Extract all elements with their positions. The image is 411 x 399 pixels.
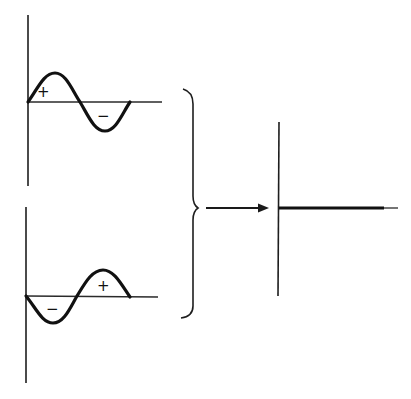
top-wave-panel: + − <box>28 15 162 186</box>
result-arrow <box>206 204 269 213</box>
bottom-wave-panel: − + <box>26 207 158 383</box>
bottom-baseline <box>26 296 158 297</box>
bottom-plus-label: + <box>97 277 110 295</box>
top-plus-label: + <box>37 83 50 101</box>
bottom-minus-label: − <box>46 300 59 318</box>
combining-brace <box>181 89 198 318</box>
result-vertical-axis <box>278 122 279 296</box>
interference-diagram: + − − + <box>0 0 411 399</box>
top-minus-label: − <box>97 107 110 125</box>
result-panel <box>278 122 398 296</box>
arrow-head-icon <box>258 204 269 213</box>
